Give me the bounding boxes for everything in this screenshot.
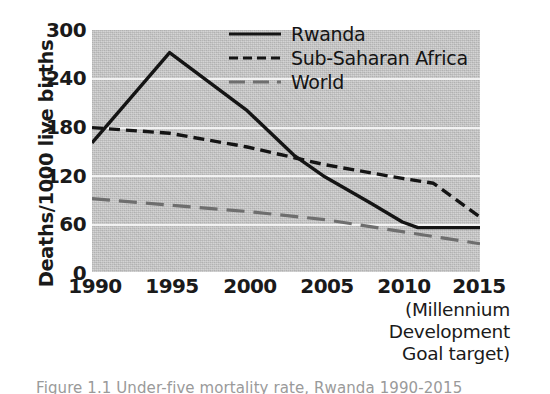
legend-item-world: World bbox=[228, 70, 488, 94]
series-line-world bbox=[92, 199, 480, 244]
legend-label-world: World bbox=[291, 71, 344, 93]
dashed-line-swatch bbox=[228, 51, 282, 65]
x-axis-note-line-1: (Millennium bbox=[300, 299, 510, 321]
x-tick-2010: 2010 bbox=[377, 274, 430, 298]
figure-caption-clipped: Figure 1.1 Under-five mortality rate, Rw… bbox=[36, 381, 516, 394]
x-tick-1990: 1990 bbox=[68, 274, 121, 298]
solid-line-swatch bbox=[228, 27, 282, 41]
x-tick-1995: 1995 bbox=[145, 274, 198, 298]
legend-label-rwanda: Rwanda bbox=[291, 23, 365, 45]
y-tick-120: 120 bbox=[36, 166, 86, 186]
y-tick-240: 240 bbox=[36, 68, 86, 88]
x-tick-2000: 2000 bbox=[223, 274, 276, 298]
y-tick-60: 60 bbox=[36, 214, 86, 234]
figure-container: Deaths/1000 live births 300 240 180 120 … bbox=[0, 0, 550, 394]
chart-legend: Rwanda Sub-Saharan Africa World bbox=[228, 22, 488, 94]
x-tick-2005: 2005 bbox=[300, 274, 353, 298]
legend-item-sub-saharan-africa: Sub-Saharan Africa bbox=[228, 46, 488, 70]
legend-item-rwanda: Rwanda bbox=[228, 22, 488, 46]
legend-label-sub-saharan-africa: Sub-Saharan Africa bbox=[291, 47, 468, 69]
y-tick-180: 180 bbox=[36, 117, 86, 137]
y-axis-tick-labels: 300 240 180 120 60 0 bbox=[36, 0, 86, 394]
x-tick-2015: 2015 bbox=[452, 274, 505, 298]
long-dashed-line-swatch bbox=[228, 75, 282, 89]
x-axis-note-line-2: Development bbox=[300, 321, 510, 343]
y-tick-300: 300 bbox=[36, 20, 86, 40]
x-axis-note-line-3: Goal target) bbox=[300, 343, 510, 365]
x-axis-note: (Millennium Development Goal target) bbox=[300, 299, 510, 364]
